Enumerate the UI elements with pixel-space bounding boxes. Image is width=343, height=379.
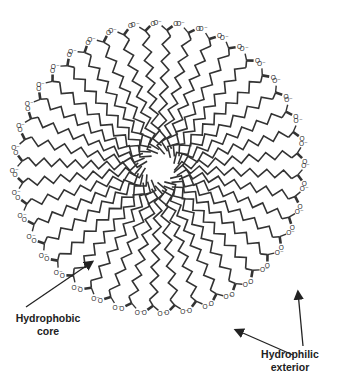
- svg-text:O⁻: O⁻: [131, 21, 140, 28]
- core-label-line2: core: [8, 325, 88, 338]
- hydrocarbon-tail: [179, 82, 261, 157]
- hydrocarbon-tail: [89, 55, 152, 147]
- svg-text:O⁻: O⁻: [112, 304, 121, 311]
- svg-text:O⁻: O⁻: [198, 25, 207, 32]
- svg-text:O⁻: O⁻: [87, 36, 96, 43]
- svg-text:O⁻: O⁻: [260, 266, 269, 273]
- svg-text:O⁻: O⁻: [203, 303, 212, 310]
- svg-text:O⁻: O⁻: [220, 34, 229, 41]
- svg-text:O⁻: O⁻: [11, 144, 20, 151]
- svg-text:O⁻: O⁻: [51, 63, 60, 70]
- svg-text:O⁻: O⁻: [36, 81, 45, 88]
- svg-text:O⁻: O⁻: [39, 252, 48, 259]
- svg-text:O⁻: O⁻: [71, 284, 80, 291]
- svg-text:O⁻: O⁻: [300, 185, 309, 192]
- svg-text:O⁻: O⁻: [68, 48, 77, 55]
- hydrocarbon-tail: [172, 187, 247, 269]
- hydrocarbon-tail: [158, 182, 178, 299]
- hydrocarbon-tail: [174, 97, 273, 164]
- hydrocarbon-tail: [172, 181, 261, 254]
- hydrocarbon-tail: [106, 46, 158, 154]
- hydrocarbon-tail: [59, 174, 146, 254]
- svg-text:O⁻: O⁻: [10, 167, 19, 174]
- hydrocarbon-tail: [173, 68, 246, 157]
- svg-text:O⁻: O⁻: [295, 208, 304, 215]
- hydrophilic-exterior-label: Hydrophilic exterior: [250, 348, 330, 374]
- svg-text:O⁻: O⁻: [16, 122, 25, 129]
- svg-text:O⁻: O⁻: [272, 77, 281, 84]
- svg-text:O⁻: O⁻: [153, 19, 162, 26]
- svg-text:O⁻: O⁻: [176, 20, 185, 27]
- hydrocarbon-tail: [164, 182, 231, 281]
- hydrocarbon-tail: [28, 166, 141, 185]
- svg-text:O⁻: O⁻: [239, 45, 248, 52]
- svg-text:O⁻: O⁻: [54, 269, 63, 276]
- svg-text:O⁻: O⁻: [293, 117, 302, 124]
- exterior-arrow-up: [298, 292, 303, 346]
- svg-text:O⁻: O⁻: [25, 100, 34, 107]
- svg-text:O⁻: O⁻: [275, 249, 284, 256]
- hydrocarbon-tail: [109, 180, 156, 290]
- svg-text:O⁻: O⁻: [12, 189, 21, 196]
- svg-text:O⁻: O⁻: [91, 295, 100, 302]
- svg-text:O⁻: O⁻: [299, 140, 308, 147]
- surfactant-chains: OO⁻OO⁻OO⁻OO⁻OO⁻OO⁻OO⁻OO⁻OO⁻OO⁻OO⁻OO⁻OO⁻O…: [10, 19, 310, 317]
- svg-text:O⁻: O⁻: [108, 27, 117, 34]
- svg-text:O⁻: O⁻: [257, 60, 266, 67]
- exterior-label-line1: Hydrophilic: [250, 348, 330, 361]
- exterior-label-line2: exterior: [250, 361, 330, 374]
- core-label-line1: Hydrophobic: [8, 312, 88, 325]
- svg-text:O⁻: O⁻: [224, 293, 233, 300]
- svg-text:O⁻: O⁻: [17, 212, 26, 219]
- svg-text:O⁻: O⁻: [158, 310, 167, 317]
- hydrophobic-core-label: Hydrophobic core: [8, 312, 88, 338]
- hydrocarbon-tail: [91, 182, 151, 281]
- svg-text:O: O: [302, 158, 307, 165]
- svg-text:O⁻: O⁻: [284, 96, 293, 103]
- svg-text:O⁻: O⁻: [27, 233, 36, 240]
- svg-text:O⁻: O⁻: [286, 229, 295, 236]
- svg-text:O⁻: O⁻: [243, 281, 252, 288]
- svg-text:O⁻: O⁻: [180, 308, 189, 315]
- svg-text:O⁻: O⁻: [135, 309, 144, 316]
